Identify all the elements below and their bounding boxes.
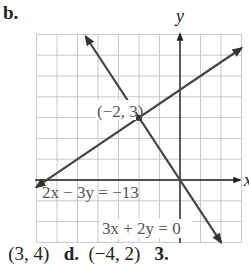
- answer-row: . (3, 4) d. (−4, 2) 3.: [0, 243, 169, 265]
- graph: (−2, 3) y x 2x − 3y = −13 3x + 2y = 0: [0, 0, 249, 266]
- x-axis-label: x: [243, 170, 249, 190]
- next-problem-label: 3.: [155, 243, 169, 264]
- point-label: (−2, 3): [97, 102, 143, 121]
- line2-label: 3x + 2y = 0: [102, 219, 181, 238]
- line1-label: 2x − 3y = −13: [42, 183, 139, 202]
- answer-c-value: (3, 4): [8, 243, 49, 264]
- y-axis-label: y: [174, 6, 184, 26]
- answer-d-label: d.: [64, 243, 79, 264]
- answer-d-value: (−4, 2): [88, 243, 140, 264]
- grid: [37, 34, 242, 242]
